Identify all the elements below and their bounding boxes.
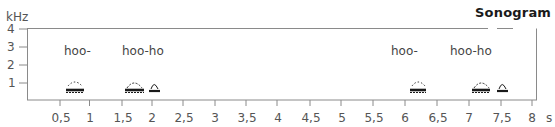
x-tick-labels: 0,5 1 1,5 2 2,5 3 3,5 4 4,5 5 5,5 6 6,5 … xyxy=(51,111,535,125)
svg-text:5: 5 xyxy=(338,111,346,125)
svg-text:5,5: 5,5 xyxy=(364,111,383,125)
svg-text:7: 7 xyxy=(465,111,473,125)
sound-event-hoo-1 xyxy=(66,82,84,93)
svg-text:2: 2 xyxy=(148,111,156,125)
svg-text:4,5: 4,5 xyxy=(301,111,320,125)
svg-text:6,5: 6,5 xyxy=(428,111,447,125)
svg-text:4: 4 xyxy=(7,22,15,36)
call-label-hoo-2: hoo- xyxy=(391,44,418,58)
y-tick-labels: 4 3 2 1 xyxy=(7,22,16,90)
svg-text:0,5: 0,5 xyxy=(51,111,70,125)
sonogram-plot: kHz 4 3 2 1 0,5 1 1,5 2 2,5 3 xyxy=(0,0,555,127)
svg-text:1: 1 xyxy=(8,76,16,90)
sound-event-hoo-ho-hoo-2 xyxy=(472,83,490,93)
call-label-hoo-1: hoo- xyxy=(64,44,91,58)
call-label-hoo-ho-2: hoo-ho xyxy=(450,44,492,58)
svg-text:2: 2 xyxy=(7,58,15,72)
sound-event-hoo-ho-ho-2 xyxy=(497,85,508,92)
sound-event-hoo-ho-hoo-1 xyxy=(125,83,144,93)
svg-text:4: 4 xyxy=(274,111,282,125)
svg-text:1: 1 xyxy=(86,111,94,125)
plot-frame xyxy=(28,29,537,101)
sound-event-hoo-2 xyxy=(410,82,426,93)
x-axis xyxy=(60,100,532,106)
y-axis xyxy=(19,29,27,83)
svg-text:3: 3 xyxy=(7,40,15,54)
sound-events xyxy=(66,82,508,93)
sound-event-hoo-ho-ho-1 xyxy=(149,85,160,92)
svg-text:6: 6 xyxy=(401,111,409,125)
svg-text:8: 8 xyxy=(528,111,536,125)
svg-text:3: 3 xyxy=(211,111,219,125)
svg-text:3,5: 3,5 xyxy=(237,111,256,125)
svg-text:7,5: 7,5 xyxy=(492,111,511,125)
call-label-hoo-ho-1: hoo-ho xyxy=(122,44,164,58)
svg-text:2,5: 2,5 xyxy=(174,111,193,125)
svg-text:1,5: 1,5 xyxy=(113,111,132,125)
x-axis-unit: s xyxy=(546,111,552,125)
